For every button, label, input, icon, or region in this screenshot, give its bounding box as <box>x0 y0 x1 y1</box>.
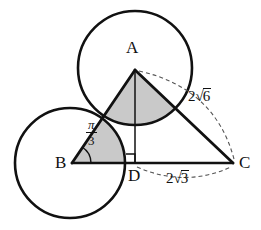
vertex-label-A: A <box>126 39 138 56</box>
vertex-label-C: C <box>239 154 250 171</box>
figure-canvas <box>0 0 261 230</box>
geometry-figure: A B C D π 3 2√6 2√3 <box>0 0 261 230</box>
angle-numerator: π <box>86 118 97 131</box>
vertex-label-B: B <box>55 154 66 171</box>
angle-denominator: 3 <box>86 134 97 147</box>
measure-DC-coefficient: 2 <box>166 170 174 186</box>
measure-label-DC: 2√3 <box>166 170 189 186</box>
right-angle-at-D <box>126 154 135 163</box>
angle-label-pi-over-3: π 3 <box>86 118 97 148</box>
sqrt-icon-AC: √6 <box>196 88 212 104</box>
vertex-label-D: D <box>128 167 140 184</box>
sqrt-icon-DC: √3 <box>174 170 190 186</box>
measure-AC-radicand: 6 <box>203 88 212 104</box>
measure-AC-coefficient: 2 <box>188 88 196 104</box>
measure-label-AC: 2√6 <box>188 88 211 104</box>
measure-DC-radicand: 3 <box>181 170 190 186</box>
